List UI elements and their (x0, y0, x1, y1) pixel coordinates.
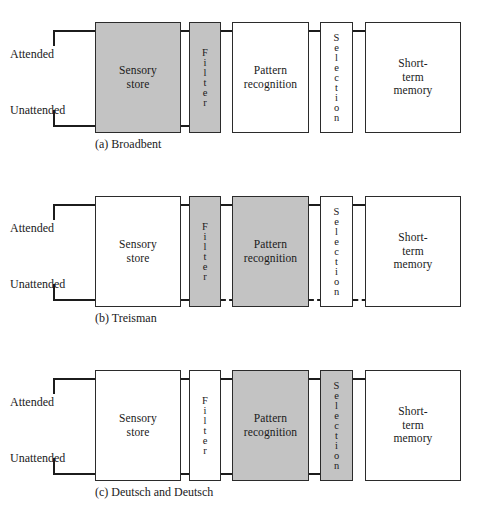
stage-sensory-store: Sensory store (95, 22, 181, 133)
input-label-unattended: Unattended (10, 103, 65, 118)
stage-short-term-memory-label: Short- term memory (394, 405, 433, 446)
stage-sensory-store: Sensory store (95, 196, 181, 307)
stage-selection-label: Selection (334, 207, 340, 297)
stage-filter: Filter (189, 196, 221, 307)
unattended-feed-stub (53, 110, 55, 126)
stage-pattern-recognition-label: Pattern recognition (244, 238, 297, 265)
stage-sensory-store: Sensory store (95, 370, 181, 481)
stage-short-term-memory-label: Short- term memory (394, 57, 433, 98)
stage-short-term-memory-label: Short- term memory (394, 231, 433, 272)
stage-filter-label: Filter (202, 222, 208, 282)
panel-treisman: Attended Unattended Sensory store Filter… (0, 174, 477, 348)
stage-filter-label: Filter (202, 396, 208, 456)
panel-deutsch-and-deutsch: Attended Unattended Sensory store Filter… (0, 348, 477, 522)
attended-feed-line (53, 30, 97, 32)
stage-selection: Selection (320, 22, 353, 133)
unattended-feed-line (53, 299, 97, 301)
stage-short-term-memory: Short- term memory (365, 22, 461, 133)
unattended-feed-line (53, 473, 97, 475)
unattended-feed-stub (53, 458, 55, 474)
panel-caption: (a) Broadbent (95, 137, 161, 152)
input-label-unattended: Unattended (10, 277, 65, 292)
stage-pattern-recognition-label: Pattern recognition (244, 64, 297, 91)
attended-feed-line (53, 378, 97, 380)
attended-feed-stub (53, 204, 55, 220)
panel-broadbent: Attended Unattended Sensory store Filter… (0, 0, 477, 174)
stage-filter: Filter (189, 22, 221, 133)
stage-pattern-recognition: Pattern recognition (232, 196, 309, 307)
stage-filter-label: Filter (202, 48, 208, 108)
attended-feed-stub (53, 378, 55, 394)
stage-sensory-store-label: Sensory store (119, 64, 157, 91)
stage-pattern-recognition-label: Pattern recognition (244, 412, 297, 439)
panel-caption: (c) Deutsch and Deutsch (95, 485, 213, 500)
input-label-attended: Attended (10, 221, 54, 236)
stage-pattern-recognition: Pattern recognition (232, 370, 309, 481)
input-label-unattended: Unattended (10, 451, 65, 466)
input-label-attended: Attended (10, 395, 54, 410)
stage-selection-label: Selection (334, 33, 340, 123)
stage-filter: Filter (189, 370, 221, 481)
stage-selection-label: Selection (334, 381, 340, 471)
attended-feed-stub (53, 30, 55, 46)
attended-feed-line (53, 204, 97, 206)
stage-sensory-store-label: Sensory store (119, 238, 157, 265)
unattended-feed-line (53, 125, 97, 127)
stage-sensory-store-label: Sensory store (119, 412, 157, 439)
unattended-feed-stub (53, 284, 55, 300)
input-label-attended: Attended (10, 47, 54, 62)
stage-pattern-recognition: Pattern recognition (232, 22, 309, 133)
stage-selection: Selection (320, 370, 353, 481)
stage-short-term-memory: Short- term memory (365, 370, 461, 481)
stage-selection: Selection (320, 196, 353, 307)
stage-short-term-memory: Short- term memory (365, 196, 461, 307)
panel-caption: (b) Treisman (95, 311, 157, 326)
